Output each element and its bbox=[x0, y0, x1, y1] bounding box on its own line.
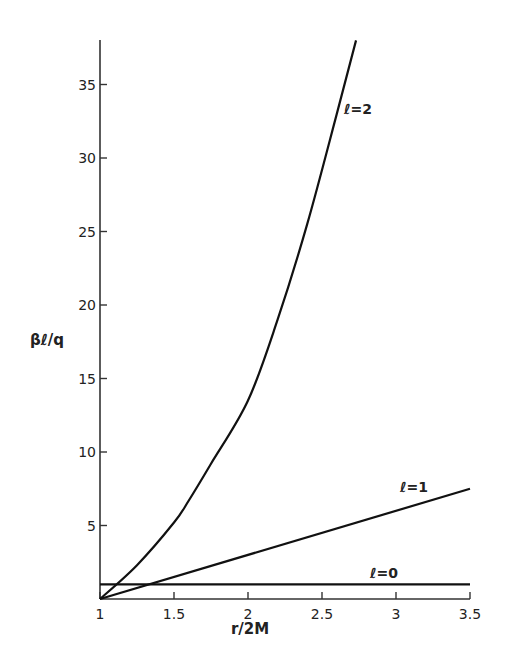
series-label: ℓ=2 bbox=[343, 101, 372, 117]
y-tick-label: 20 bbox=[78, 297, 96, 313]
series-line bbox=[100, 40, 356, 599]
chart: 510152025303511.522.533.5r/2Mβℓ/qℓ=0ℓ=1ℓ… bbox=[0, 0, 505, 666]
y-tick-label: 30 bbox=[78, 150, 96, 166]
y-tick-label: 35 bbox=[78, 77, 96, 93]
x-tick-label: 1.5 bbox=[163, 606, 185, 622]
y-tick-label: 10 bbox=[78, 444, 96, 460]
x-tick-label: 1 bbox=[96, 606, 105, 622]
x-tick-label: 2.5 bbox=[311, 606, 333, 622]
x-tick-label: 3 bbox=[392, 606, 401, 622]
y-tick-label: 25 bbox=[78, 224, 96, 240]
series-label: ℓ=0 bbox=[369, 565, 398, 581]
x-tick-label: 3.5 bbox=[459, 606, 481, 622]
y-tick-label: 15 bbox=[78, 371, 96, 387]
y-axis-label: βℓ/q bbox=[30, 331, 64, 349]
x-axis-label: r/2M bbox=[231, 620, 269, 638]
y-tick-label: 5 bbox=[87, 518, 96, 534]
series-label: ℓ=1 bbox=[399, 479, 428, 495]
